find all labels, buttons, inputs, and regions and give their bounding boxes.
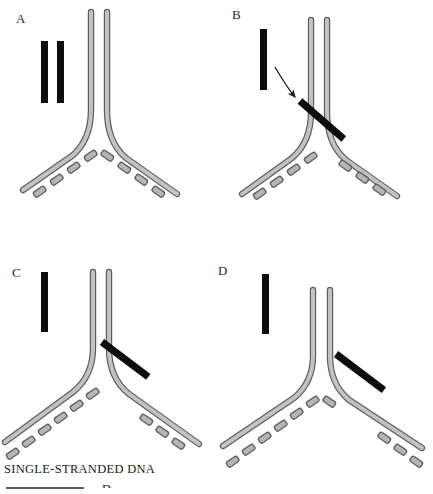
bound-probe-d: [334, 351, 386, 393]
fork-diagram-c: [0, 252, 216, 482]
free-probe-1-a: [41, 41, 48, 103]
figure-legend: SINGLE-STRANDED DNA D: [4, 462, 429, 476]
free-probe-2-a: [57, 41, 64, 103]
binding-arrow-b: [275, 67, 295, 97]
okazaki-fragments-right-b: [338, 159, 386, 196]
legend-single-stranded-dna: SINGLE-STRANDED DNA: [4, 462, 429, 476]
panel-c: C: [0, 252, 216, 482]
fork-diagram-a: [0, 0, 216, 230]
panel-b: B: [216, 0, 432, 230]
okazaki-fragments-left-c: [6, 387, 100, 460]
legend-rule: [6, 487, 84, 489]
okazaki-fragments-right-a: [100, 149, 165, 198]
legend-rule-row: D: [6, 482, 246, 494]
fork-diagram-b: [216, 0, 432, 230]
figure-canvas: A: [0, 0, 433, 494]
free-probe-1-c: [41, 272, 48, 332]
panel-a: A: [0, 0, 216, 230]
fork-diagram-d: [216, 252, 432, 482]
legend-cut-label: D: [102, 482, 111, 488]
panel-d: D: [216, 252, 432, 482]
free-probe-1-b: [260, 29, 267, 90]
free-probe-1-d: [262, 274, 269, 334]
okazaki-fragments-right-d: [322, 395, 423, 468]
